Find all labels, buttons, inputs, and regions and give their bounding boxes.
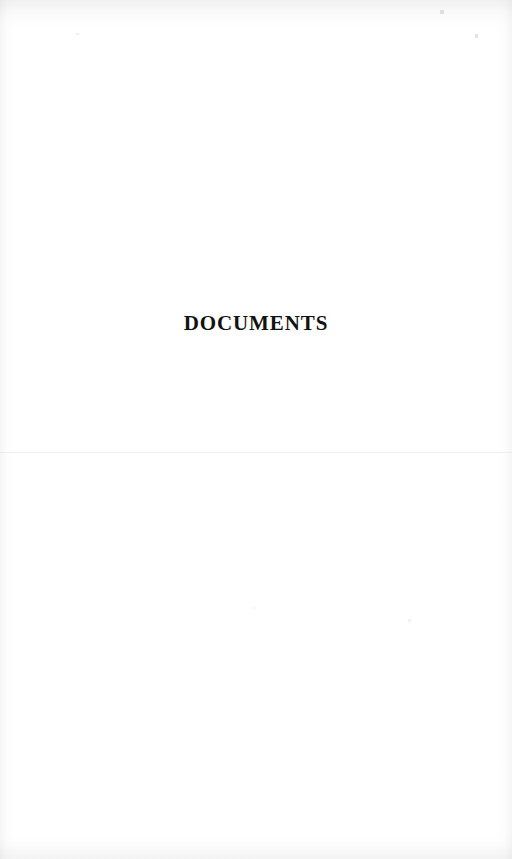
section-title-block: DOCUMENTS [0,310,512,336]
scan-seam-line [0,452,512,453]
scan-speck [408,619,411,622]
scan-edge-top [0,0,512,34]
scan-speck [440,10,444,14]
scan-edge-bottom [0,829,512,859]
scan-edge-left [0,0,14,859]
scan-speck [76,33,79,35]
scan-edge-right [496,0,512,859]
scanned-page: DOCUMENTS [0,0,512,859]
scan-speck [253,607,255,609]
scan-speck [475,34,478,38]
page-title: DOCUMENTS [184,310,329,336]
